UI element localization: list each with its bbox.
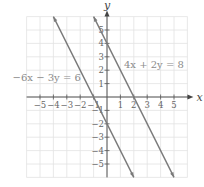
x-tick-label: −3: [61, 100, 74, 110]
x-tick-label: −5: [34, 100, 47, 110]
x-tick-label: −2: [74, 100, 87, 110]
y-tick-label: −4: [91, 146, 104, 156]
x-axis-label: x: [196, 91, 203, 104]
x-axis-arrow-icon: [187, 95, 193, 100]
x-tick-label: 1: [118, 100, 123, 110]
y-tick-label: 1: [99, 79, 104, 89]
line-arrow-icon: [130, 172, 134, 177]
y-axis-label: y: [103, 0, 111, 12]
equation-label: 4x + 2y = 8: [124, 59, 184, 70]
x-tick-label: 3: [144, 100, 149, 110]
x-tick-label: −4: [47, 100, 60, 110]
y-tick-label: −2: [91, 119, 104, 129]
line-arrow-icon: [53, 17, 57, 22]
line-arrow-icon: [94, 17, 98, 22]
x-tick-label: 5: [171, 100, 176, 110]
equation-label: −6x − 3y = 6: [13, 72, 81, 83]
y-tick-label: 3: [99, 52, 104, 62]
y-tick-label: −5: [91, 159, 104, 169]
y-tick-label: 4: [99, 38, 104, 48]
x-tick-label: 4: [158, 100, 163, 110]
line-arrow-icon: [170, 172, 174, 177]
coordinate-plane: −5−4−3−2−112345−5−4−3−2−112345 x y 4x + …: [0, 0, 204, 187]
y-tick-label: −3: [91, 132, 104, 142]
y-tick-label: 2: [99, 65, 104, 75]
